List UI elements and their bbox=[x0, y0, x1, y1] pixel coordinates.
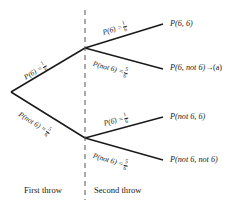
outcome-label-six-not-six: P(6, not 6)→(a) bbox=[170, 64, 222, 72]
arrow-icon: → bbox=[205, 63, 213, 72]
outcome-label-six-six: P(6, 6) bbox=[170, 20, 193, 28]
stage-caption-second-throw: Second throw bbox=[94, 186, 142, 195]
outcome-label-not-six-six: P(not 6, 6) bbox=[170, 113, 205, 121]
outcome-annotation-a: (a) bbox=[213, 63, 222, 72]
probability-tree-diagram: P(6) =16 P(not 6) =56 P(6) =16 P(not 6) … bbox=[0, 0, 249, 210]
stage-caption-first-throw: First throw bbox=[24, 186, 62, 195]
outcome-label-not-six-not-six: P(not 6, not 6) bbox=[170, 156, 218, 164]
